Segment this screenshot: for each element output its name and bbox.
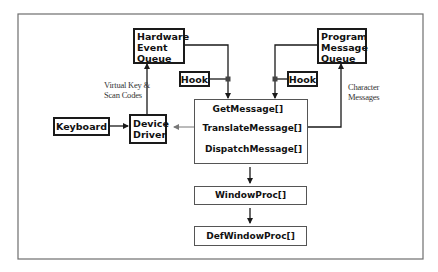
device-driver-line-1: Device: [133, 118, 163, 129]
defwindowproc-box: DefWindowProc[]: [194, 226, 307, 246]
virtual-key-line-2: Scan Codes: [104, 90, 150, 100]
hook-right-label: Hook: [289, 74, 316, 85]
junction-right: [273, 77, 278, 82]
virtual-key-annotation: Virtual Key & Scan Codes: [104, 80, 150, 100]
hardware-event-queue: Hardware Event Queue: [133, 28, 185, 64]
message-loop-box: GetMessage[] TranslateMessage[] Dispatch…: [194, 99, 308, 164]
program-queue-line-3: Queue: [321, 53, 363, 64]
hook-left-label: Hook: [181, 74, 208, 85]
windowproc-label: WindowProc[]: [215, 190, 286, 201]
translatemessage-label: TranslateMessage[]: [202, 123, 302, 134]
junction-left: [226, 77, 231, 82]
device-driver-line-2: Driver: [133, 129, 163, 140]
keyboard-label: Keyboard: [56, 121, 107, 132]
hook-left: Hook: [179, 71, 210, 87]
character-messages-line-1: Character: [348, 82, 379, 92]
keyboard-box: Keyboard: [53, 117, 110, 136]
dispatchmessage-label: DispatchMessage[]: [205, 144, 302, 155]
windowproc-box: WindowProc[]: [194, 186, 307, 205]
device-driver-box: Device Driver: [129, 114, 167, 144]
program-message-queue: Program Message Queue: [317, 28, 367, 64]
character-messages-line-2: Messages: [348, 92, 379, 102]
hook-right: Hook: [287, 71, 318, 87]
defwindowproc-label: DefWindowProc[]: [206, 231, 295, 242]
hardware-queue-line-2: Event: [137, 42, 181, 53]
program-queue-line-2: Message: [321, 42, 363, 53]
character-messages-annotation: Character Messages: [348, 82, 379, 102]
virtual-key-line-1: Virtual Key &: [104, 80, 150, 90]
hardware-queue-line-3: Queue: [137, 53, 181, 64]
hardware-queue-line-1: Hardware: [137, 31, 181, 42]
getmessage-label: GetMessage[]: [213, 104, 283, 115]
program-queue-line-1: Program: [321, 31, 363, 42]
